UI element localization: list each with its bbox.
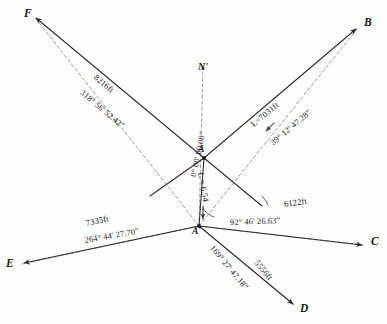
angle-arc-center — [203, 208, 214, 217]
north-arrow-label: N' — [198, 62, 208, 72]
survey-traverse-diagram: F B E C D A A' N' 8216ft 318° 56' 52.42”… — [0, 0, 387, 324]
ray-Aprime-to-C — [199, 226, 362, 245]
station-label-B: B — [364, 17, 372, 29]
angle-arc-B — [262, 196, 268, 205]
ray-A-to-F — [36, 18, 204, 158]
station-label-D: D — [300, 303, 309, 315]
ray-A-crossing-right — [204, 158, 262, 206]
station-label-A-prime: A' — [192, 227, 201, 237]
station-label-F: F — [24, 8, 32, 20]
angle-tick-B — [266, 123, 274, 131]
bearing-label-C: 92° 46' 26.63” — [230, 217, 281, 227]
station-label-E: E — [6, 258, 14, 270]
dashed-ray-to-B — [199, 29, 357, 226]
station-label-C: C — [371, 236, 379, 248]
ray-Aprime-to-D — [199, 226, 293, 304]
